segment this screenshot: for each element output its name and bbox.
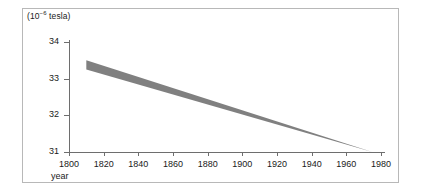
- x-axis-title: year: [51, 171, 69, 181]
- data-band-polygon: [86, 60, 372, 152]
- chart-figure: (10−6 tesla) 31323334 180018201840186018…: [22, 8, 399, 183]
- data-band-layer: [23, 9, 400, 184]
